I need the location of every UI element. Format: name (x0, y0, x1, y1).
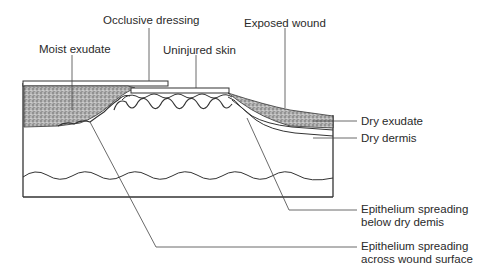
label-epithelium-across-line2: across wound surface (361, 253, 473, 266)
epidermis-lower-wave (114, 98, 232, 110)
epidermis-upper-wave (122, 94, 232, 100)
moist-exudate-region (24, 86, 135, 127)
occlusive-dressing (23, 81, 168, 86)
label-dry-dermis: Dry dermis (361, 132, 417, 145)
label-epithelium-across-wound: Epithelium spreading across wound surfac… (361, 240, 473, 266)
label-epithelium-across-line1: Epithelium spreading (361, 240, 473, 253)
label-epithelium-below-dermis: Epithelium spreading below dry demis (361, 203, 468, 229)
label-uninjured-skin: Uninjured skin (163, 44, 236, 57)
label-epithelium-below-line2: below dry demis (361, 216, 468, 229)
label-epithelium-below-line1: Epithelium spreading (361, 203, 468, 216)
label-exposed-wound: Exposed wound (244, 17, 326, 30)
uninjured-skin-surface (131, 88, 229, 93)
dry-exudate-region (228, 93, 333, 128)
label-occlusive-dressing: Occlusive dressing (103, 14, 200, 27)
dermis-deep-wave (23, 172, 333, 180)
label-dry-exudate: Dry exudate (361, 115, 423, 128)
leader-lines (72, 28, 357, 247)
label-moist-exudate: Moist exudate (39, 43, 111, 56)
